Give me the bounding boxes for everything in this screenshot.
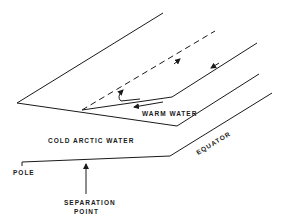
southward-flow-arrow-icon bbox=[211, 63, 219, 68]
coast-line-equator bbox=[170, 93, 272, 156]
outer-wedge-right-line bbox=[177, 74, 259, 126]
outer-wedge-top-line bbox=[17, 13, 163, 103]
equator-label: EQUATOR bbox=[195, 130, 232, 157]
warm-water-boundary bbox=[82, 43, 257, 110]
cold-arctic-water-label: COLD ARCTIC WATER bbox=[48, 137, 134, 144]
diagram-canvas: WARM WATER COLD ARCTIC WATER EQUATOR POL… bbox=[0, 0, 286, 217]
warm-water-flow-arrow-icon bbox=[134, 102, 163, 107]
dashed-stream-line bbox=[82, 31, 215, 110]
northward-flow-arrow-icon bbox=[174, 59, 180, 64]
warm-boundary-lower-line bbox=[82, 97, 172, 110]
coast-line-lower bbox=[22, 156, 170, 162]
recirculation-arrow-icon bbox=[119, 90, 140, 101]
warm-water-label: WARM WATER bbox=[142, 110, 197, 117]
outer-wedge bbox=[17, 13, 259, 126]
pole-label: POLE bbox=[13, 169, 35, 176]
coastline bbox=[22, 93, 272, 166]
warm-boundary-upper-line bbox=[172, 43, 257, 97]
separation-label-line2: POINT bbox=[74, 208, 99, 215]
separation-label-line1: SEPARATION bbox=[64, 199, 116, 206]
